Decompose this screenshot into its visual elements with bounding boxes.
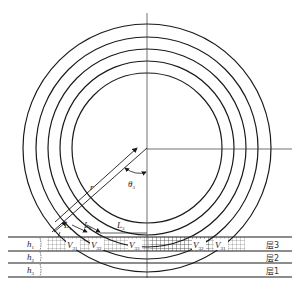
h2-label: h2 [27,252,35,263]
radius-arrow [55,148,137,222]
L2-label: L2 [83,220,92,231]
L3-label: L3 [116,220,125,231]
angle-arc [125,168,146,173]
radius-label: r [90,182,94,192]
layer-names: 层3 层2 层1 [266,241,279,276]
layer-1-name: 层1 [266,267,279,276]
L1-label: L1 [63,220,72,231]
layered-circle-diagram: r θ3 L1 L2 L3 V31 V32 V33 V32 V31 h1 h2 … [0,0,303,290]
layer-2-name: 层2 [266,254,279,263]
h3-label: h3 [27,265,35,276]
h1-label: h1 [27,239,35,250]
angle-label: θ3 [128,179,135,190]
layer-3-name: 层3 [266,241,279,250]
thickness-labels: h1 h2 h3 [27,238,41,276]
